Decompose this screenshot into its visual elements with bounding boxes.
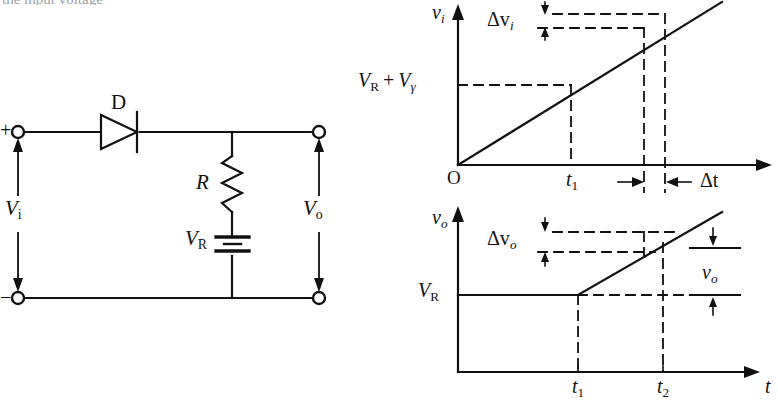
terminal-input-minus (12, 292, 24, 304)
vo-label: Vo (303, 198, 323, 222)
diode-symbol (101, 112, 137, 152)
delta-vo-arrows (541, 218, 549, 266)
vi-label-main: V (5, 196, 18, 220)
upper-x-axis-arrowhead (756, 159, 772, 171)
lower-vr-sub: R (430, 289, 439, 304)
vi-arrow-up-head (13, 138, 23, 152)
delta-t-arrow-right-head (632, 177, 644, 187)
lower-t2-label: t2 (657, 376, 669, 399)
resistor-symbol (222, 156, 242, 212)
delta-vo-label: Δvo (487, 228, 516, 251)
upper-y-tick-vg-sub: γ (411, 79, 416, 94)
diode-triangle (101, 115, 137, 149)
lower-y-axis-label: vo (432, 207, 447, 230)
vo-label-sub: o (316, 207, 323, 222)
vo-arrow-up-head (314, 138, 324, 152)
vo-arrow-down-head (314, 278, 324, 292)
upper-y-tick-label: VR+Vγ (358, 70, 416, 93)
vo-span-label: vo (702, 262, 717, 285)
circuit-terminals (12, 126, 325, 304)
terminal-input-plus (12, 126, 24, 138)
lower-y-axis-label-sub: o (441, 216, 448, 231)
vo-span-sub: o (711, 271, 718, 286)
upper-y-axis-label-main: v (432, 1, 441, 23)
battery-label-main: V (185, 226, 198, 250)
circuit-diagram (25, 132, 312, 298)
battery-label-sub: R (198, 237, 207, 252)
battery-label: VR (185, 228, 207, 252)
lower-t2-sub: 2 (663, 385, 670, 400)
upper-y-axis-label: vi (432, 2, 445, 25)
vi-arrow-down-head (13, 278, 23, 292)
delta-vo-sub: o (510, 237, 517, 252)
lower-vr-label: VR (418, 280, 439, 303)
upper-y-tick-vg-main: V (398, 69, 410, 91)
delta-t-label: Δt (700, 170, 718, 190)
lower-y-axis-arrowhead (452, 206, 464, 222)
delta-t-arrow-left-head (666, 177, 678, 187)
upper-y-axis-label-sub: i (441, 11, 445, 26)
battery-symbol (216, 237, 249, 251)
delta-vi-arrows (541, 2, 549, 40)
vo-label-main: V (303, 196, 316, 220)
delta-vi-label: Δvi (487, 9, 514, 32)
terminal-output-bottom (313, 292, 325, 304)
lower-t1-label: t1 (572, 376, 584, 399)
delta-vi-main: Δv (487, 8, 510, 30)
delta-vo-arrow-down-head (541, 222, 549, 232)
vo-arrow-top-head (709, 236, 717, 246)
delta-t-arrows (618, 177, 691, 187)
upper-origin-label: O (447, 168, 461, 187)
upper-y-tick-vr-sub: R (370, 79, 379, 94)
figure-svg (0, 0, 778, 401)
input-plus-sign: + (0, 120, 11, 140)
lower-t1-sub: 1 (578, 385, 585, 400)
delta-vo-arrow-up-head (541, 252, 549, 262)
lower-waveform-line (458, 212, 722, 295)
delta-vo-main: Δv (487, 227, 510, 249)
vo-arrow-bottom-head (709, 297, 717, 307)
terminal-output-top (313, 126, 325, 138)
upper-t1-label: t1 (566, 169, 578, 192)
vi-label: Vi (5, 198, 22, 222)
delta-vi-arrow-down-head (541, 5, 549, 15)
lower-x-axis-label: t (765, 376, 771, 396)
upper-y-tick-plus: + (379, 69, 398, 91)
lower-y-axis-label-main: v (432, 206, 441, 228)
vo-span-main: v (702, 261, 711, 283)
delta-vi-sub: i (510, 18, 514, 33)
vi-label-sub: i (18, 207, 22, 222)
upper-y-tick-vr-main: V (358, 69, 370, 91)
lower-vr-main: V (418, 279, 430, 301)
lower-x-axis-arrowhead (744, 366, 760, 378)
input-minus-sign: − (0, 287, 11, 307)
diode-label: D (111, 92, 126, 113)
upper-t1-sub: 1 (572, 178, 579, 193)
upper-y-axis-arrowhead (452, 4, 464, 20)
resistor-label: R (196, 172, 209, 193)
